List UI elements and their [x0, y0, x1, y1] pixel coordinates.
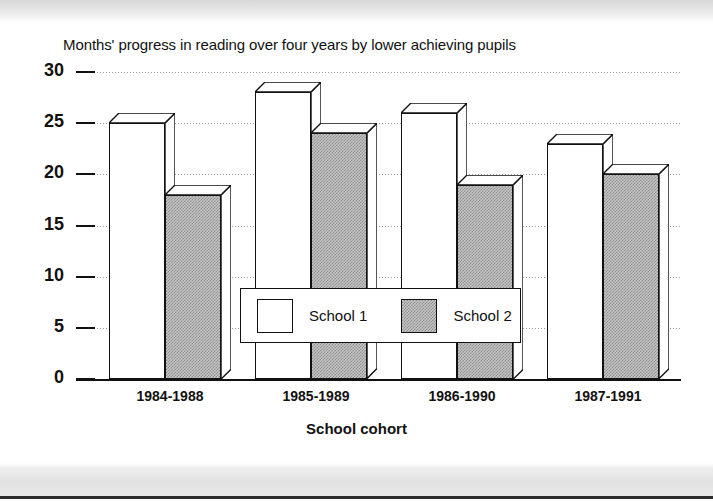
y-tick-mark-15 [76, 225, 95, 227]
legend-label-school-2: School 2 [453, 307, 511, 324]
bar-school-1-1987-1991 [547, 144, 603, 379]
white-swatch-icon [257, 299, 293, 333]
scan-artifact-bottom-band [0, 463, 713, 497]
chart-legend: School 1 School 2 [240, 288, 521, 343]
y-tick-label-0: 0 [8, 367, 64, 388]
bar-school-1-1984-1988 [109, 123, 165, 379]
x-axis-title: School cohort [0, 420, 713, 437]
bar-side-face [221, 185, 231, 379]
gridline-30 [97, 72, 681, 73]
bar-side-face [513, 175, 523, 379]
bar-top-face [311, 123, 377, 133]
bar-school-2-1984-1988 [165, 195, 221, 379]
x-tick-label-1987-1991: 1987-1991 [533, 388, 683, 404]
bar-front-face [109, 123, 165, 379]
legend-item-school-1: School 1 [257, 299, 367, 333]
y-tick-label-10: 10 [8, 265, 64, 286]
bar-school-2-1986-1990 [457, 185, 513, 379]
y-tick-label-15: 15 [8, 214, 64, 235]
bar-school-2-1987-1991 [603, 174, 659, 379]
bar-top-face [109, 113, 175, 123]
scan-artifact-top-band [0, 0, 713, 22]
y-tick-label-30: 30 [8, 60, 64, 81]
bar-top-face [165, 185, 231, 195]
bar-top-face [457, 175, 523, 185]
chart-figure: Months' progress in reading over four ye… [0, 22, 713, 463]
plot-area: 051015202530 School 1 School 2 1984-1988… [0, 22, 713, 463]
y-tick-mark-10 [76, 276, 95, 278]
y-tick-label-20: 20 [8, 162, 64, 183]
bar-top-face [401, 103, 467, 113]
x-tick-label-1984-1988: 1984-1988 [95, 388, 245, 404]
bar-front-face [603, 174, 659, 379]
bar-top-face [255, 82, 321, 92]
x-tick-label-1986-1990: 1986-1990 [387, 388, 537, 404]
scan-artifact-rule [0, 496, 713, 499]
bar-front-face [457, 185, 513, 379]
y-tick-mark-30 [76, 71, 95, 73]
grey-hatched-swatch-icon [401, 299, 437, 333]
y-tick-mark-5 [76, 327, 95, 329]
bar-top-face [603, 164, 669, 174]
x-axis-line [76, 379, 681, 381]
y-tick-mark-20 [76, 173, 95, 175]
y-tick-label-5: 5 [8, 316, 64, 337]
bar-front-face [165, 195, 221, 379]
gridline-25 [97, 123, 681, 124]
x-tick-label-1985-1989: 1985-1989 [241, 388, 391, 404]
bar-front-face [547, 144, 603, 379]
y-tick-mark-25 [76, 122, 95, 124]
legend-item-school-2: School 2 [401, 299, 511, 333]
bar-side-face [659, 164, 669, 379]
y-tick-label-25: 25 [8, 111, 64, 132]
bar-top-face [547, 134, 613, 144]
legend-label-school-1: School 1 [309, 307, 367, 324]
